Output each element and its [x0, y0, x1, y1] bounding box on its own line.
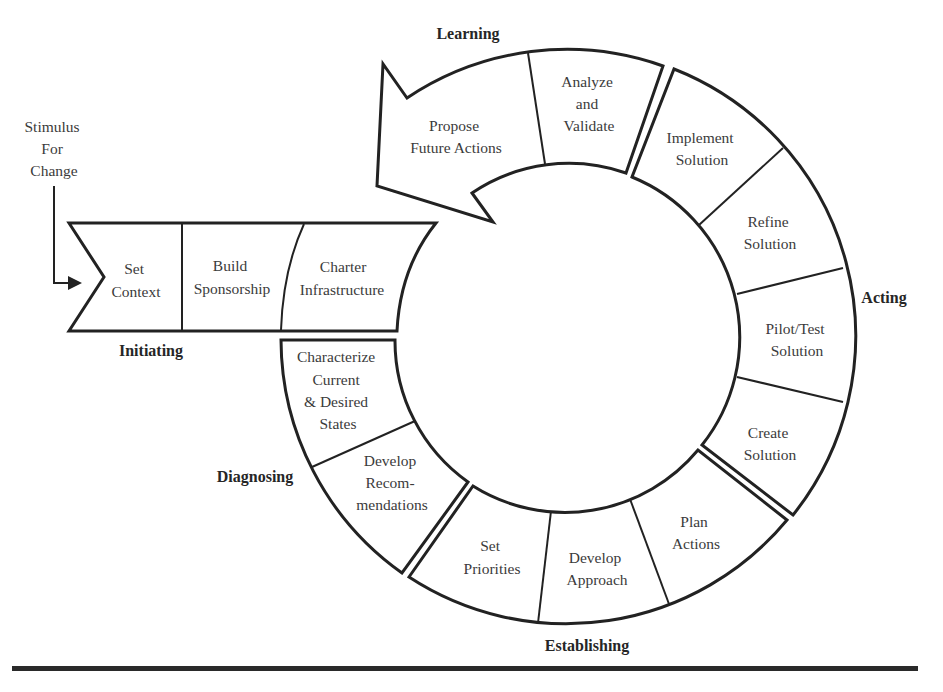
phase-label-learning: Learning	[436, 25, 499, 43]
learning-arrow-segment	[377, 49, 663, 222]
phase-label-acting: Acting	[861, 289, 906, 307]
establishing-ring-segment	[409, 450, 787, 624]
arrow-head-icon	[68, 276, 82, 290]
stimulus-label: Stimulus For Change	[24, 118, 83, 179]
initiating-ribbon	[69, 223, 436, 331]
initiating-phase	[69, 223, 436, 331]
phase-label-initiating: Initiating	[119, 342, 183, 360]
step-develop-recommendations: Develop Recom- mendations	[356, 452, 427, 513]
establishing-phase	[409, 450, 787, 624]
bottom-rule-divider	[12, 666, 918, 671]
ideal-model-diagram: Stimulus For Change Set Context Build Sp…	[0, 0, 943, 692]
phase-label-diagnosing: Diagnosing	[217, 468, 293, 486]
phase-label-establishing: Establishing	[545, 637, 629, 655]
arrow-right-icon	[54, 186, 72, 283]
learning-phase	[377, 49, 663, 222]
stimulus-for-change: Stimulus For Change	[24, 118, 83, 290]
